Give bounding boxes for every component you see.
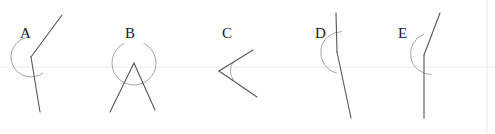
angle-labels: ABCDE [20,25,407,41]
angle-arc-c [231,62,234,80]
angle-label-d: D [315,25,326,41]
guide-lines [0,0,495,134]
angle-ray-d-2 [337,52,351,118]
angle-ray-a-1 [31,15,62,57]
angle-figure-a [11,15,62,112]
angle-diagram-canvas: ABCDE [0,0,495,134]
angle-figure-c [219,50,257,97]
angle-label-a: A [20,25,31,41]
angle-label-c: C [222,25,232,41]
angle-ray-c-1 [219,50,253,71]
angle-arc-e [411,34,432,75]
angle-worksheet-figure: ABCDE [0,0,495,134]
angle-ray-d-1 [336,13,337,52]
angle-ray-b-2 [134,63,155,110]
angle-ray-e-1 [424,13,440,55]
angle-figure-b [110,43,156,112]
angle-ray-a-2 [31,57,40,112]
angle-figure-e [411,13,440,118]
angle-ray-c-2 [219,71,257,97]
angle-label-b: B [125,25,135,41]
angle-label-e: E [398,25,407,41]
angle-arc-a [11,37,43,77]
